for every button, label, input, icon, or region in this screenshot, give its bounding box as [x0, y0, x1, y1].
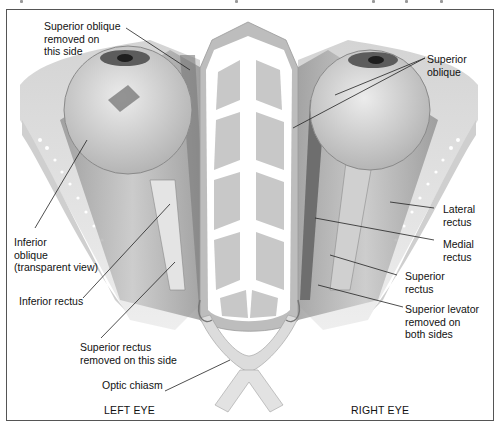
label-superior-rectus: Superior rectus — [405, 270, 445, 295]
label-superior-levator: Superior levator removed on both sides — [405, 303, 479, 341]
label-optic-chiasm: Optic chiasm — [102, 379, 163, 392]
left-eyeball — [64, 46, 192, 174]
central-bone — [200, 22, 298, 331]
label-superior-oblique: Superior oblique — [427, 53, 467, 78]
label-superior-rectus-removed: Superior rectus removed on this side — [80, 341, 177, 366]
label-superior-oblique-removed: Superior oblique removed on this side — [44, 20, 120, 58]
caption-right-eye: RIGHT EYE — [351, 404, 409, 416]
label-inferior-oblique: Inferior oblique (transparent view) — [14, 236, 98, 274]
anatomical-illustration — [0, 0, 498, 427]
caption-left-eye: LEFT EYE — [104, 404, 155, 416]
right-eyeball — [310, 50, 430, 170]
label-inferior-rectus: Inferior rectus — [19, 295, 83, 308]
label-lateral-rectus: Lateral rectus — [443, 203, 475, 228]
label-medial-rectus: Medial rectus — [443, 238, 474, 263]
